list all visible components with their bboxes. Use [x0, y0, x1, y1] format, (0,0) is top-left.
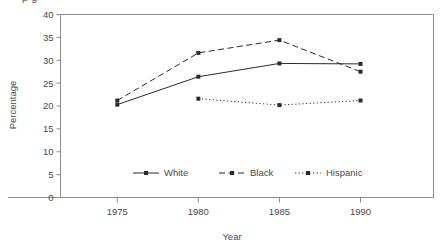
data-point-marker [115, 99, 119, 103]
data-point-marker [359, 70, 363, 74]
chart-figure: p g 0510152025303540 1975198019851990 Wh… [0, 0, 446, 251]
y-tick-label: 25 [43, 78, 54, 89]
legend-label: White [164, 167, 188, 178]
y-tick-label: 0 [48, 192, 53, 203]
chart-legend: WhiteBlackHispanic [133, 167, 363, 178]
x-tick-label: 1975 [107, 206, 128, 217]
data-point-marker [196, 51, 200, 55]
data-point-marker [196, 75, 200, 79]
x-tick-label: 1980 [188, 206, 209, 217]
series-line [117, 63, 360, 104]
x-axis-ticks: 1975198019851990 [107, 198, 371, 217]
y-tick-label: 20 [43, 100, 54, 111]
data-point-marker [277, 61, 281, 65]
data-point-marker [115, 103, 119, 107]
y-tick-label: 10 [43, 146, 54, 157]
y-tick-label: 30 [43, 55, 54, 66]
cropped-title-strip: p g [0, 0, 446, 9]
x-tick-label: 1990 [350, 206, 371, 217]
cropped-title-text: p g [22, 0, 37, 3]
legend-label: Hispanic [326, 167, 363, 178]
legend-marker [230, 171, 234, 175]
data-point-marker [277, 38, 281, 42]
y-axis-ticks: 0510152025303540 [43, 9, 61, 203]
legend-marker [144, 171, 148, 175]
legend-marker [306, 171, 310, 175]
data-point-marker [277, 103, 281, 107]
data-point-marker [359, 62, 363, 66]
line-chart: 0510152025303540 1975198019851990 WhiteB… [0, 0, 446, 251]
legend-label: Black [250, 167, 273, 178]
y-tick-label: 40 [43, 9, 54, 20]
y-tick-label: 15 [43, 123, 54, 134]
y-axis-title: Percentage [7, 81, 18, 130]
data-series-group [115, 38, 362, 107]
x-tick-label: 1985 [269, 206, 290, 217]
x-axis-title: Year [222, 231, 241, 242]
data-point-marker [359, 99, 363, 103]
y-tick-label: 5 [48, 169, 53, 180]
data-point-marker [196, 97, 200, 101]
plot-frame [8, 15, 434, 198]
y-tick-label: 35 [43, 32, 54, 43]
